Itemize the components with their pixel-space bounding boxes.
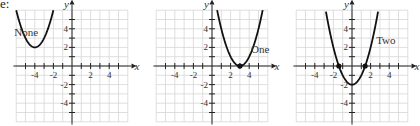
svg-text:4: 4	[344, 24, 349, 34]
svg-text:y: y	[203, 0, 209, 10]
svg-text:4: 4	[204, 24, 209, 34]
svg-text:4: 4	[387, 70, 392, 80]
parabola-chart-2: xy-4-22442-2-4One	[140, 0, 280, 126]
x-intercept-point	[363, 63, 368, 68]
svg-text:-2: -2	[190, 70, 198, 80]
svg-text:-2: -2	[330, 70, 338, 80]
intercept-count-label: One	[251, 43, 269, 55]
svg-text:4: 4	[64, 24, 69, 34]
intercept-count-label: Two	[376, 34, 396, 46]
parabola-chart-3: xy-4-22442-2-4Two	[280, 0, 420, 126]
svg-text:y: y	[63, 0, 69, 10]
svg-text:4: 4	[247, 70, 252, 80]
svg-text:2: 2	[64, 42, 69, 52]
parabola-chart-1: xy-4-22442-2-4None	[0, 0, 140, 126]
svg-text:-2: -2	[50, 70, 58, 80]
svg-text:2: 2	[204, 42, 209, 52]
svg-text:-4: -4	[61, 98, 69, 108]
x-intercept-point	[336, 63, 341, 68]
svg-text:-2: -2	[61, 80, 69, 90]
svg-text:2: 2	[368, 70, 373, 80]
svg-text:-4: -4	[341, 98, 349, 108]
svg-text:2: 2	[228, 70, 233, 80]
svg-text:2: 2	[88, 70, 93, 80]
svg-text:y: y	[343, 0, 349, 10]
svg-text:-2: -2	[201, 80, 209, 90]
intercept-count-label: None	[14, 26, 38, 38]
svg-text:2: 2	[344, 42, 349, 52]
svg-text:x: x	[274, 60, 280, 72]
svg-text:-4: -4	[171, 70, 179, 80]
svg-text:x: x	[414, 60, 420, 72]
svg-text:x: x	[134, 60, 140, 72]
svg-text:-4: -4	[201, 98, 209, 108]
svg-text:-4: -4	[311, 70, 319, 80]
svg-text:-4: -4	[31, 70, 39, 80]
x-intercept-point	[237, 63, 242, 68]
svg-text:4: 4	[107, 70, 112, 80]
